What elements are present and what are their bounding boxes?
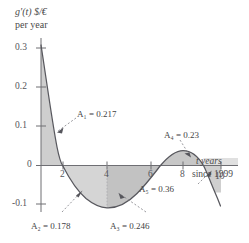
y-axis-title-line2: per year [15, 20, 47, 30]
x-axis-title-line2: since 1999 [192, 170, 233, 180]
leader-a1 [58, 118, 76, 131]
area-fill-a2 [63, 166, 107, 208]
area-label-a5: A₅ = 0.36 [139, 185, 174, 194]
area-label-a3: A₃ = 0.246 [110, 222, 149, 231]
arrow-a1 [57, 128, 64, 134]
x-tick-label-8: 8 [180, 170, 185, 180]
area-label-a1: A₁ = 0.217 [77, 110, 116, 119]
y-tick-label-0.1: 0.1 [15, 121, 27, 131]
x-tick-label-6: 6 [148, 170, 153, 180]
y-tick-label-0.3: 0.3 [15, 43, 27, 53]
x-tick-label-2: 2 [60, 170, 65, 180]
y-axis-title-line1: g'(t) $/€ [15, 7, 47, 17]
area-label-a2: A₂ = 0.178 [31, 222, 70, 231]
chart-canvas [0, 0, 249, 243]
y-tick-label-0.2: 0.2 [15, 82, 27, 92]
y-tick-label--0.1: -0.1 [12, 199, 27, 209]
area-label-a4: A₄ = 0.23 [164, 131, 199, 140]
chart-figure: g'(t) $/€ per year 0.3 0.2 0.1 0 -0.1 2 … [0, 0, 249, 243]
x-tick-label-4: 4 [104, 170, 109, 180]
y-tick-label-0: 0 [27, 160, 32, 170]
x-axis-title-line1: t years [196, 157, 222, 167]
